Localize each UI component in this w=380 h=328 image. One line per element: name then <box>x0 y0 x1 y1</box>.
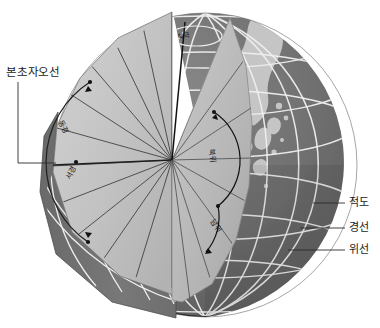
label-equator: 적도 <box>349 196 369 208</box>
arc-end-marker-top <box>88 80 92 84</box>
label-prime-meridian: 본초자오선 <box>6 66 60 79</box>
label-parallel: 위선 <box>349 243 369 255</box>
globe-diagram-svg <box>0 0 380 328</box>
label-meridian: 경선 <box>349 221 369 233</box>
label-north-latitude: 북위 <box>207 148 219 163</box>
figure-canvas: 본초자오선 적도 경선 위선 북극 동경 서경 북위 남위 <box>0 0 380 328</box>
label-north-pole: 북극 <box>177 29 190 41</box>
arc-end-marker-bottom <box>86 240 90 244</box>
arc-origin-marker <box>74 160 78 164</box>
